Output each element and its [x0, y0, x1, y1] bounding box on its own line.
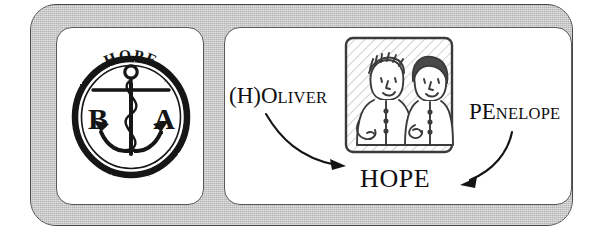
label-penelope-small: NELOPE	[496, 104, 560, 123]
label-oliver-large: (H)O	[229, 83, 278, 108]
label-penelope: PENELOPE	[469, 100, 560, 123]
hope-anchor-seal-graphic: HOPE B A	[57, 28, 204, 205]
seal-panel: HOPE B A	[56, 27, 204, 205]
seal-left-letter: B	[88, 102, 108, 135]
label-penelope-large: PE	[469, 99, 496, 124]
arrow-oliver-to-hope	[262, 110, 358, 180]
seal-right-letter: A	[153, 102, 175, 135]
figure-root: HOPE B A	[0, 0, 603, 240]
couple-photo-sketch	[341, 33, 457, 157]
arrow-penelope-to-hope	[452, 128, 522, 194]
label-oliver-small: LIVER	[278, 88, 328, 107]
label-hope-result: HOPE	[360, 166, 430, 192]
label-oliver: (H)OLIVER	[229, 84, 327, 107]
